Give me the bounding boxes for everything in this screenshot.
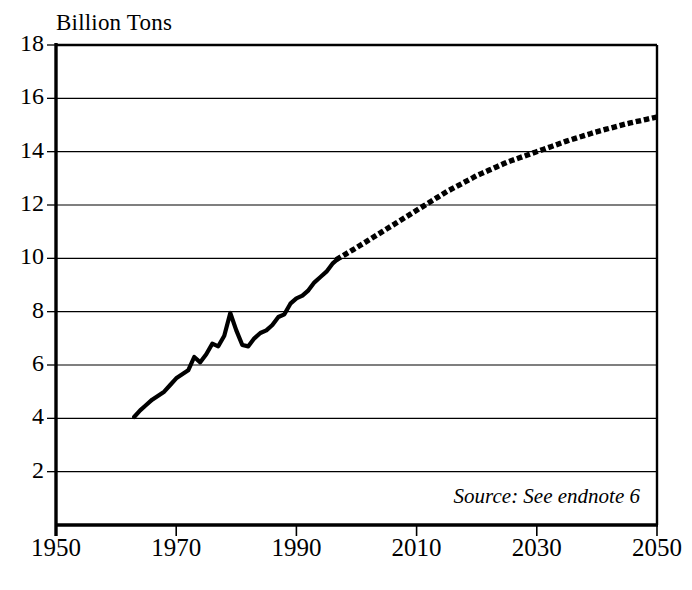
axis-ticks [47,45,657,536]
gridlines [56,98,657,471]
series-historical [134,258,338,417]
axis-frame [55,43,658,536]
series-projection [338,117,657,258]
source-annotation: Source: See endnote 6 [454,484,640,509]
data-series-layer [134,117,657,417]
chart-figure: Billion Tons 18161412108642 195019701990… [0,0,692,590]
